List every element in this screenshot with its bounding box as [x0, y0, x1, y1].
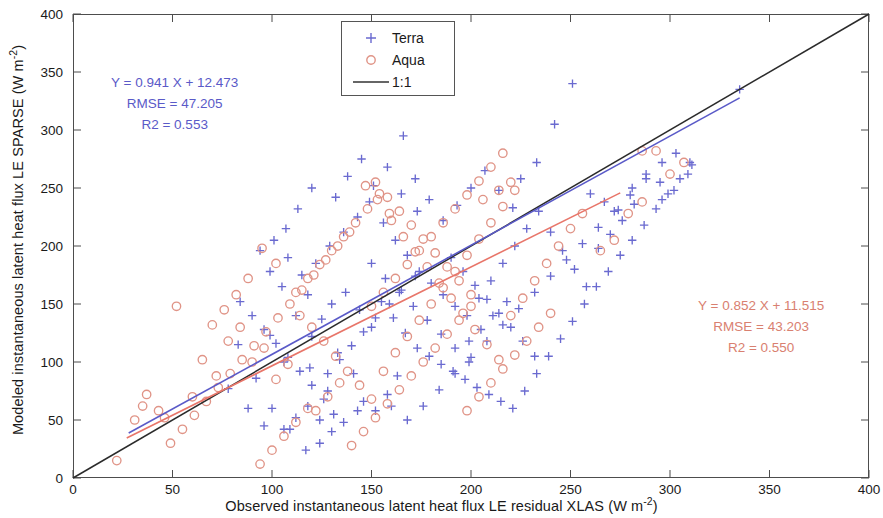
x-tick-label: 100 [261, 482, 284, 497]
legend-item-aqua: Aqua [342, 49, 454, 71]
y-tick-label: 100 [40, 355, 63, 370]
y-tick-label: 0 [55, 471, 63, 486]
terra-stats-line-3: R2 = 0.553 [111, 114, 238, 135]
y-tick-label: 50 [48, 413, 63, 428]
x-tick-label: 400 [858, 482, 881, 497]
x-tick-label: 50 [165, 482, 180, 497]
y-tick-label: 150 [40, 297, 63, 312]
aqua-stats-line-3: R2 = 0.550 [698, 337, 824, 358]
x-tick-label: 350 [758, 482, 781, 497]
x-tick-label: 200 [460, 482, 483, 497]
y-axis-title-text: Modeled instantaneous latent heat flux L… [10, 59, 26, 435]
x-tick-label: 250 [559, 482, 582, 497]
legend-label: 1:1 [392, 74, 411, 90]
aqua-stats-line-2: RMSE = 43.203 [698, 316, 824, 337]
x-tick-label: 150 [360, 482, 383, 497]
terra-stats-line-1: Y = 0.941 X + 12.473 [111, 72, 238, 93]
terra-fit-line [129, 98, 740, 433]
x-tick-label: 0 [69, 482, 77, 497]
legend-label: Terra [392, 30, 424, 46]
y-tick-label: 400 [40, 7, 63, 22]
legend-item-1-1: 1:1 [342, 71, 454, 93]
x-axis-title-superscript: -2 [643, 496, 652, 507]
scatter-chart-figure: Modeled instantaneous latent heat flux L… [0, 0, 883, 518]
x-axis-title: Observed instantaneous latent heat flux … [0, 498, 883, 514]
y-tick-label: 300 [40, 123, 63, 138]
x-axis-title-text: Observed instantaneous latent heat flux … [225, 498, 643, 514]
aqua-stats-annotation: Y = 0.852 X + 11.515RMSE = 43.203R2 = 0.… [698, 295, 824, 358]
y-tick-label: 200 [40, 239, 63, 254]
series-terra [224, 79, 744, 454]
y-tick-label: 250 [40, 181, 63, 196]
series-aqua [113, 147, 689, 469]
y-axis-title-tail: ) [10, 45, 26, 50]
legend-item-terra: Terra [342, 27, 454, 49]
line-icon [350, 75, 392, 89]
circle-icon [350, 53, 392, 67]
x-tick-label: 300 [659, 482, 682, 497]
y-axis-title: Modeled instantaneous latent heat flux L… [10, 0, 26, 490]
y-tick-label: 350 [40, 65, 63, 80]
legend-label: Aqua [392, 52, 425, 68]
terra-stats-annotation: Y = 0.941 X + 12.473RMSE = 47.205R2 = 0.… [111, 72, 238, 135]
aqua-stats-line-1: Y = 0.852 X + 11.515 [698, 295, 824, 316]
y-axis-title-superscript: -2 [8, 50, 19, 59]
x-axis-title-tail: ) [653, 498, 658, 514]
terra-stats-line-2: RMSE = 47.205 [111, 93, 238, 114]
chart-legend: TerraAqua1:1 [341, 21, 455, 96]
plus-icon [350, 31, 392, 45]
